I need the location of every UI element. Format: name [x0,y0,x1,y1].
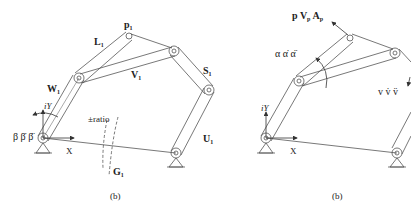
ground-link-right [266,138,397,153]
link-right-p-c [352,34,393,49]
link-v1 [80,47,175,83]
ground-support-right-fig-left [259,143,273,153]
label-w1: W1 [47,83,60,95]
link-right-mid [300,49,396,86]
joint-right-c [390,48,400,58]
label-g1: G1 [113,166,124,178]
label-s1: S1 [203,65,212,77]
point-arrow [332,22,348,35]
label-p1: p1 [124,19,133,31]
right-labels: p Vp Ap α α̇ α̈ v v̇ v̈ iY X (b) [261,10,398,201]
label-l1: L1 [94,36,104,48]
ratio-cut-2 [103,120,107,168]
label-v1: V1 [131,69,141,81]
joint-right-p [347,35,353,41]
link-u1 [171,88,214,155]
label-axis-y-right: iY [261,103,270,113]
caption-right: (b) [332,191,343,201]
velocity-arrow [408,77,410,86]
ground-support-right [169,158,183,167]
label-velocity: v v̇ v̈ [378,86,398,97]
ground-support-right-fig-right [390,158,404,167]
label-ratio: ±ratio [88,114,110,124]
ground-support-left [36,143,50,153]
joint-right-b [294,76,304,86]
link-p-c [131,34,172,48]
linkage-diagrams: p1 L1 W1 V1 S1 U1 G1 ±ratio β β̇ β̈ iY X… [0,0,411,212]
label-axis-x-right: X [290,146,297,156]
angle-arc-beta [33,113,58,117]
label-alpha: α α̇ α̈ [275,48,298,59]
link-right-upper [296,34,353,86]
label-u1: U1 [203,133,213,145]
ground-link-g1 [43,138,176,153]
left-labels: p1 L1 W1 V1 S1 U1 G1 ±ratio β β̇ β̈ iY X… [13,19,213,201]
joint-d [204,85,214,95]
caption-left: (b) [110,191,121,201]
label-axis-y: iY [44,101,53,111]
joint-p1 [126,33,132,39]
label-beta: β β̇ β̈ [13,131,35,142]
left-linkage [33,32,214,176]
link-right-side [392,49,411,154]
label-axis-x: X [66,146,73,156]
label-p-vp-ap: p Vp Ap [292,10,324,22]
joint-c [169,46,179,56]
